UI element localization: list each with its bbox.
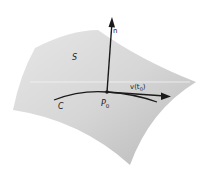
point-P0 bbox=[105, 90, 109, 94]
normal-arrowhead-icon bbox=[109, 17, 116, 28]
label-v-t0: v(t0) bbox=[130, 83, 146, 92]
label-C: C bbox=[58, 102, 64, 111]
label-S: S bbox=[72, 53, 77, 62]
label-n: n bbox=[113, 27, 117, 35]
surface-diagram: S n C P0 v(t0) bbox=[0, 0, 204, 180]
surface-S bbox=[13, 30, 196, 165]
